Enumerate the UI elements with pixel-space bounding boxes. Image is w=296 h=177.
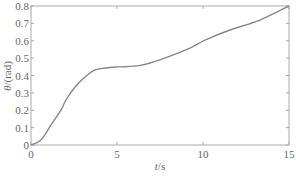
plot-border (31, 6, 289, 145)
y-tick-label: 0.3 (15, 87, 29, 99)
x-axis-label: t/s (155, 160, 165, 172)
y-tick-label: 0.2 (15, 104, 29, 116)
x-tick-label: 15 (284, 148, 296, 160)
y-tick-label: 0.8 (15, 0, 29, 12)
y-tick-labels: 00.10.20.30.40.50.60.70.8 (15, 0, 29, 151)
theta-curve (31, 6, 289, 145)
x-tick-label: 10 (198, 148, 210, 160)
theta-vs-time-chart: 00.10.20.30.40.50.60.70.8 051015 t/s θ/(… (0, 0, 295, 177)
x-tick-label: 0 (28, 148, 34, 160)
y-tick-label: 0.5 (15, 52, 29, 64)
y-tick-label: 0.1 (15, 122, 29, 134)
x-tick-labels: 051015 (28, 148, 295, 160)
data-series (31, 6, 289, 145)
y-tick-label: 0.6 (15, 35, 29, 47)
y-axis-label: θ/(rad) (1, 61, 14, 91)
axis-ticks (31, 6, 289, 145)
x-tick-label: 5 (114, 148, 120, 160)
y-tick-label: 0.7 (15, 17, 29, 29)
plot-frame (31, 6, 289, 145)
y-tick-label: 0.4 (15, 70, 29, 82)
